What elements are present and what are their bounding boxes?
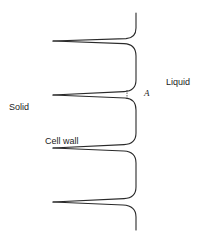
cell-boundary-3 (53, 148, 136, 202)
point-a-label: A (144, 89, 150, 98)
cell-boundary-top (53, 13, 136, 41)
cell-wall-label: Cell wall (45, 137, 79, 146)
cell-boundary-bottom (53, 202, 136, 230)
liquid-label: Liquid (166, 78, 190, 87)
interface-profile-drawing (0, 0, 201, 242)
cellular-interface-diagram: Solid Liquid Cell wall A (0, 0, 201, 242)
cell-boundary-1 (53, 41, 136, 95)
solid-label: Solid (9, 103, 29, 112)
